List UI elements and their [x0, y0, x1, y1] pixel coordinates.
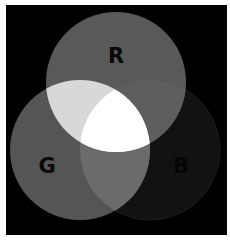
venn-diagram: R G B	[0, 0, 230, 240]
label-r: R	[108, 44, 124, 68]
label-b: B	[173, 154, 189, 178]
label-g: G	[38, 154, 55, 178]
